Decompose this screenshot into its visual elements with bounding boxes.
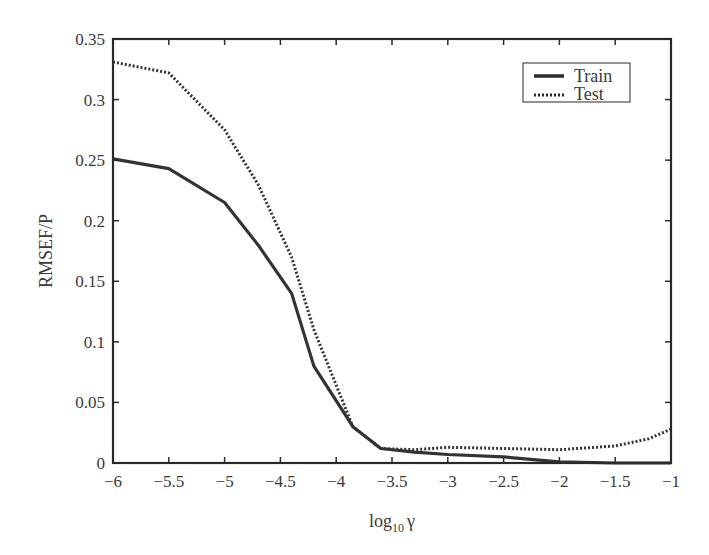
y-tick-label: 0.3 [84, 91, 105, 110]
y-tick-label: 0.05 [75, 393, 105, 412]
y-tick-label: 0 [97, 454, 106, 473]
line-chart: −6−5.5−5−4.5−4−3.5−3−2.5−2−1.5−1 00.050.… [0, 0, 709, 555]
x-tick-label: −3.5 [377, 472, 408, 491]
x-tick-label: −4 [327, 472, 346, 491]
y-axis-label: RMSEF/P [36, 214, 56, 288]
series-line-test [113, 62, 671, 450]
x-tick-label: −3 [439, 472, 457, 491]
x-tick-label: −5 [216, 472, 234, 491]
legend: Train Test [523, 63, 630, 104]
x-axis-ticks: −6−5.5−5−4.5−4−3.5−3−2.5−2−1.5−1 [104, 39, 680, 491]
x-tick-label: −2 [550, 472, 568, 491]
x-axis-label: log10γ [369, 511, 415, 535]
y-tick-label: 0.1 [84, 333, 105, 352]
y-tick-label: 0.35 [75, 30, 105, 49]
legend-test-label: Test [574, 84, 604, 104]
legend-train-label: Train [574, 66, 612, 86]
y-tick-label: 0.15 [75, 272, 105, 291]
x-tick-label: −1 [662, 472, 680, 491]
plot-lines [113, 62, 671, 463]
x-tick-label: −1.5 [600, 472, 631, 491]
y-tick-label: 0.25 [75, 151, 105, 170]
y-tick-label: 0.2 [84, 212, 105, 231]
x-tick-label: −6 [104, 472, 122, 491]
x-tick-label: −5.5 [153, 472, 184, 491]
x-tick-label: −4.5 [265, 472, 296, 491]
series-line-train [113, 159, 671, 463]
x-tick-label: −2.5 [488, 472, 519, 491]
